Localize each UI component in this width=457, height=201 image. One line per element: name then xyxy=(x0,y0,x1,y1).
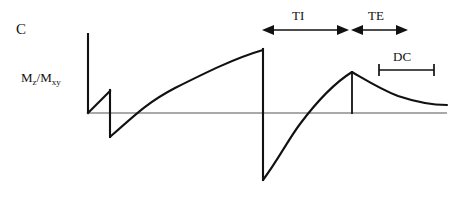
y-axis-label-mxy-main: M xyxy=(40,70,52,85)
second-recovery-curve xyxy=(263,72,352,180)
ti-arrowhead-left xyxy=(262,25,274,35)
plot-canvas xyxy=(0,0,457,201)
dc-label: DC xyxy=(393,50,411,63)
ti-arrowhead-right xyxy=(337,25,349,35)
mri-magnetization-figure: C Mz/Mxy TI TE DC xyxy=(0,0,457,201)
te-arrow xyxy=(351,25,408,35)
first-recovery-curve xyxy=(110,50,263,137)
panel-label: C xyxy=(16,22,26,37)
y-axis-label-mz-main: M xyxy=(21,70,33,85)
y-axis-label: Mz/Mxy xyxy=(21,71,61,84)
y-axis-label-mz-sub: z xyxy=(33,77,37,87)
ti-label: TI xyxy=(292,9,304,22)
te-label: TE xyxy=(368,9,384,22)
initial-ramp-segment xyxy=(88,91,110,113)
te-arrowhead-left xyxy=(351,25,363,35)
ti-arrow xyxy=(262,25,349,35)
t2-decay-curve xyxy=(352,72,447,105)
y-axis-label-mxy-sub: xy xyxy=(52,77,61,87)
te-arrowhead-right xyxy=(396,25,408,35)
dc-bar xyxy=(379,64,434,76)
